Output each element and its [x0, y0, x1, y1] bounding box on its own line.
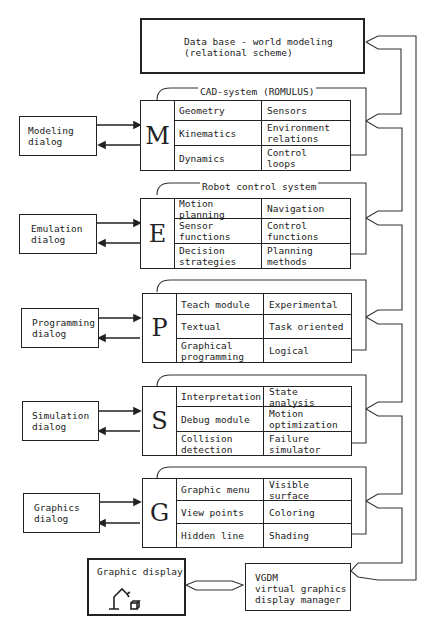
- graphic-display-label: Graphic display: [97, 566, 183, 577]
- cell: Coloring: [264, 501, 351, 524]
- cell: Motion optimization: [264, 407, 351, 432]
- dialog-label: Graphics dialog: [34, 502, 80, 524]
- robot-arm-icon: [107, 584, 157, 612]
- cell: View points: [176, 501, 264, 524]
- dialog-box-emulation[interactable]: Emulation dialog: [19, 214, 97, 254]
- cell: Kinematics: [174, 121, 262, 146]
- cell: Failure simulator: [264, 432, 351, 455]
- cell: Logical: [264, 339, 351, 362]
- dialog-box-graphics[interactable]: Graphics dialog: [23, 493, 100, 533]
- module-letter: G: [143, 479, 177, 547]
- module-letter: M: [141, 101, 175, 170]
- graphic-display-box: Graphic display: [87, 558, 186, 616]
- dialog-label: Programming dialog: [32, 317, 95, 339]
- cell: Collision detection: [176, 432, 264, 455]
- dialog-label: Simulation dialog: [32, 410, 89, 432]
- vgdm-box: VGDM virtual graphics display manager: [245, 563, 351, 611]
- module-letter: E: [141, 199, 175, 268]
- module-letter: S: [143, 387, 177, 455]
- cell: Planning methods: [262, 244, 350, 268]
- module-title-m: CAD-system (ROMULUS): [198, 86, 316, 97]
- cell: Dynamics: [174, 146, 262, 170]
- cell: Environment relations: [262, 121, 350, 146]
- cell: Task oriented: [264, 315, 351, 339]
- cell: Sensors: [262, 101, 350, 121]
- module-letter: P: [143, 294, 177, 362]
- cell: Textual: [176, 315, 264, 339]
- module-g: G Graphic menu Visible surface View poin…: [142, 478, 352, 548]
- module-p: P Teach module Experimental Textual Task…: [142, 293, 352, 363]
- cell: Experimental: [264, 294, 351, 315]
- module-title-e: Robot control system: [200, 181, 318, 192]
- cell: Sensor functions: [174, 219, 262, 244]
- cell: State analysis: [264, 387, 351, 407]
- database-label: Data base - world modeling (relational s…: [184, 36, 333, 58]
- dialog-box-simulation[interactable]: Simulation dialog: [22, 401, 99, 441]
- cell: Geometry: [174, 101, 262, 121]
- module-e: E Motion planning Navigation Sensor func…: [140, 198, 351, 269]
- module-s: S Interpretation State analysis Debug mo…: [142, 386, 352, 456]
- cell: Control functions: [262, 219, 350, 244]
- cell: Interpretation: [176, 387, 264, 407]
- dialog-box-programming[interactable]: Programming dialog: [21, 308, 99, 348]
- cell: Decision strategies: [174, 244, 262, 268]
- cell: Visible surface: [264, 479, 351, 501]
- dialog-label: Modeling dialog: [28, 125, 74, 147]
- cell: Debug module: [176, 407, 264, 432]
- module-m: M Geometry Sensors Kinematics Environmen…: [140, 100, 351, 171]
- cell: Graphical programming: [176, 339, 264, 362]
- vgdm-label: VGDM virtual graphics display manager: [255, 572, 347, 605]
- cell: Control loops: [262, 146, 350, 170]
- cell: Teach module: [176, 294, 264, 315]
- dialog-box-modeling[interactable]: Modeling dialog: [19, 116, 97, 156]
- cell: Graphic menu: [176, 479, 264, 501]
- dialog-label: Emulation dialog: [31, 223, 82, 245]
- cell: Motion planning: [174, 199, 262, 219]
- cell: Hidden line: [176, 524, 264, 547]
- cell: Shading: [264, 524, 351, 547]
- database-box: Data base - world modeling (relational s…: [140, 18, 365, 74]
- cell: Navigation: [262, 199, 350, 219]
